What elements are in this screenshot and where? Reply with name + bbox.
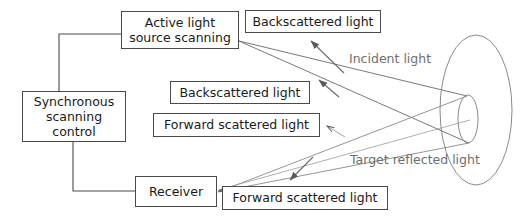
node-active-light-source-scanning[interactable]: Active light source scanning [121,11,239,49]
caption-leader-arrows [290,41,345,180]
node-backscattered-light-top[interactable]: Backscattered light [245,10,381,33]
node-forward-scattered-light-bottom[interactable]: Forward scattered light [222,186,388,210]
diagram-canvas: Active light source scanning Synchronous… [0,0,523,219]
node-synchronous-scanning-control[interactable]: Synchronous scanning control [22,91,126,142]
label-incident-light: Incident light [349,51,431,66]
node-backscattered-light-middle[interactable]: Backscattered light [170,81,310,104]
return-beam-rays [218,96,470,192]
node-forward-scattered-light-middle[interactable]: Forward scattered light [153,113,320,137]
node-receiver[interactable]: Receiver [135,176,217,207]
label-target-reflected-light: Target reflected light [350,152,480,167]
